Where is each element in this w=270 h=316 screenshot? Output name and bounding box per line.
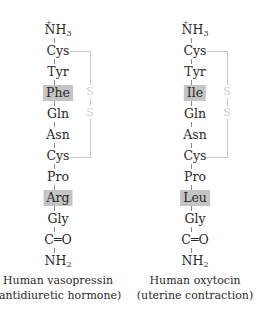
positive-charge: + [183, 15, 190, 31]
sulfur-atom: S [223, 106, 231, 119]
c-terminus-amide: NH2 [42, 253, 75, 269]
molecule-name: Human vasopressin [0, 274, 126, 288]
molecule-function: (antidiuretic hormone) [0, 289, 126, 303]
residue-leu: Leu [180, 190, 210, 206]
residue-gln: Gln [181, 106, 209, 122]
n-terminus: +NH3 [179, 22, 212, 38]
residue-phe: Phe [43, 85, 73, 101]
residue-gln: Gln [44, 106, 72, 122]
sulfur-atom: S [86, 85, 94, 98]
residue-tyr: Tyr [44, 64, 71, 80]
residue-cys: Cys [180, 148, 209, 164]
residue-tyr: Tyr [181, 64, 208, 80]
positive-charge: + [46, 15, 53, 31]
residue-ile: Ile [184, 85, 206, 101]
residue-asn: Asn [180, 127, 210, 143]
residue-gly: Gly [181, 211, 208, 227]
residue-cys: Cys [180, 43, 209, 59]
residue-cys: Cys [43, 148, 72, 164]
molecule-function: (uterine contraction) [128, 289, 263, 303]
residue-asn: Asn [43, 127, 73, 143]
sulfur-atom: S [223, 85, 231, 98]
carbonyl-group: C═O [178, 232, 211, 248]
n-terminus: +NH3 [42, 22, 75, 38]
residue-gly: Gly [44, 211, 71, 227]
residue-pro: Pro [181, 169, 209, 185]
carbonyl-group: C═O [41, 232, 74, 248]
sulfur-atom: S [86, 106, 94, 119]
residue-cys: Cys [43, 43, 72, 59]
molecule-name: Human oxytocin [128, 274, 263, 288]
residue-arg: Arg [43, 190, 72, 206]
c-terminus-amide: NH2 [179, 253, 212, 269]
residue-pro: Pro [44, 169, 72, 185]
disulfide-bridge [70, 51, 91, 158]
disulfide-bridge [207, 51, 228, 158]
